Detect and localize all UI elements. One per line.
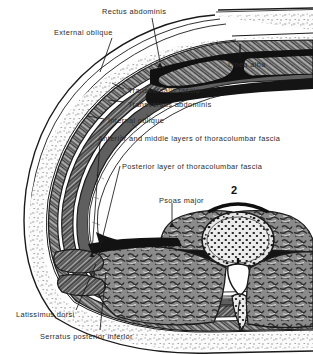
label-anterior-middle-tlf: Anterior and middle layers of thoracolum… <box>98 135 280 142</box>
label-psoas-major: Psoas major <box>159 197 204 204</box>
plate-number: 2 <box>231 184 237 196</box>
label-linea-alba: Linea alba <box>228 61 266 68</box>
anatomical-figure: 2 Rectus abdominis External oblique Line… <box>0 0 313 354</box>
cross-section-drawing <box>0 0 313 354</box>
label-transversalis-fascia: Transversalis fascia <box>128 87 200 94</box>
label-internal-oblique: Internal oblique <box>108 117 164 124</box>
label-transversus-abdominis: Transversus abdominis <box>128 101 211 108</box>
label-latissimus-dorsi: Latissimus dorsi <box>16 311 75 318</box>
label-serratus-posterior: Serratus posterior inferior <box>40 333 133 340</box>
label-rectus-abdominis: Rectus abdominis <box>102 8 166 15</box>
erector-spinae-muscle <box>94 246 313 330</box>
label-posterior-tlf: Posterior layer of thoracolumbar fascia <box>122 163 262 170</box>
label-external-oblique: External oblique <box>54 29 113 36</box>
